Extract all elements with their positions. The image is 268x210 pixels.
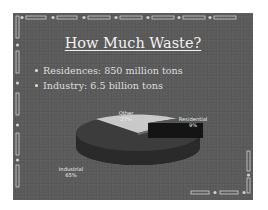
industrial-label-pct: 65% — [53, 172, 89, 178]
industrial-label: Industrial 65% — [53, 166, 89, 178]
residential-label-pct: 9% — [173, 122, 213, 128]
other-label: Other 27% — [111, 110, 141, 122]
residential-label: Residential 9% — [173, 116, 213, 128]
other-label-pct: 27% — [111, 116, 141, 122]
pie-chart — [13, 13, 253, 200]
slide: How Much Waste? Residences: 850 million … — [13, 13, 253, 200]
